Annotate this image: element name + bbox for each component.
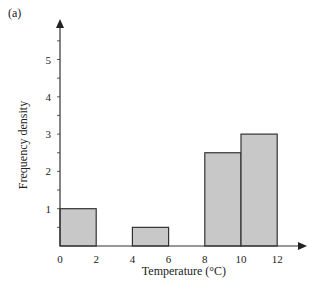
x-tick-label: 4 xyxy=(130,253,136,265)
histogram-bars xyxy=(60,134,277,246)
histogram-bar xyxy=(241,134,277,246)
histogram-bar xyxy=(205,153,241,246)
x-tick-label: 12 xyxy=(272,253,283,265)
y-tick-label: 2 xyxy=(46,165,52,177)
y-tick-label: 4 xyxy=(46,91,52,103)
y-tick-label: 1 xyxy=(46,203,52,215)
histogram-bar xyxy=(60,209,96,246)
y-axis-label: Frequency density xyxy=(16,101,30,189)
y-tick-label: 5 xyxy=(46,54,52,66)
x-tick-label: 2 xyxy=(93,253,99,265)
x-tick-label: 10 xyxy=(236,253,248,265)
x-axis-label: Temperature (°C) xyxy=(142,264,226,278)
histogram-chart: 12345024681012 Temperature (°C) Frequenc… xyxy=(0,0,323,291)
x-tick-label: 0 xyxy=(57,253,63,265)
y-tick-label: 3 xyxy=(46,128,52,140)
histogram-bar xyxy=(132,227,168,246)
